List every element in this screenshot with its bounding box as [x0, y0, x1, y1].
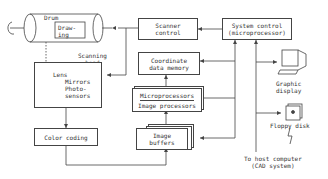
system-control-label: System control (microprocessor) — [228, 22, 286, 36]
floppy-disk-label: Floppy disk — [270, 122, 310, 129]
color-coding-label: Color coding — [44, 134, 87, 141]
image-buffers-label: Image buffers — [149, 132, 174, 146]
mirrors-label: Mirrors — [65, 78, 90, 85]
color-coding-box: Color coding — [34, 128, 98, 146]
system-control-box: System control (microprocessor) — [222, 18, 292, 40]
sensor-block: Lens Mirrors Photo- sensors — [34, 62, 102, 108]
processors-box: Microprocessors Image processors — [132, 88, 202, 112]
host-computer-label: To host computer (CAD system) — [244, 155, 302, 169]
drawing-label: Draw- ing — [58, 24, 76, 38]
image-processors-label: Image processors — [138, 102, 196, 109]
graphic-display-label: Graphic display — [276, 80, 301, 94]
coordinate-memory-box: Coordinate data memory — [138, 52, 200, 75]
scanner-control-label: Scanner control — [155, 22, 180, 36]
photosensors-label: Photo- sensors — [65, 85, 90, 99]
coordinate-memory-label: Coordinate data memory — [149, 57, 189, 71]
drum-label: Drum — [44, 14, 58, 21]
scanner-control-box: Scanner control — [138, 18, 198, 40]
image-buffers-box: Image buffers — [136, 128, 188, 150]
lens-label: Lens — [53, 71, 67, 78]
microprocessors-label: Microprocessors — [140, 92, 194, 99]
